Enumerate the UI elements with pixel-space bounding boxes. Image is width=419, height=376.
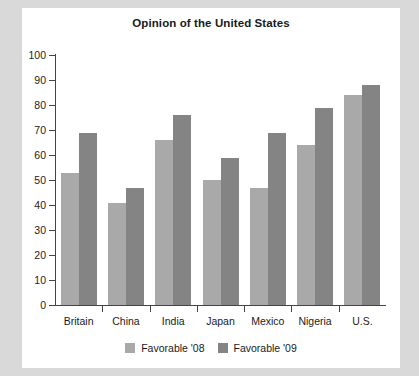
x-tick xyxy=(244,306,245,312)
chart-card: Opinion of the United States 01020304050… xyxy=(22,8,400,368)
bar-mexico-series-0 xyxy=(250,188,268,306)
x-axis-line xyxy=(55,305,386,306)
x-tick xyxy=(150,306,151,312)
bar-mexico-series-1 xyxy=(268,133,286,306)
bar-india-series-1 xyxy=(173,115,191,305)
x-tick xyxy=(291,306,292,312)
legend-swatch-icon xyxy=(125,343,135,353)
x-tick xyxy=(102,306,103,312)
legend-label: Favorable '08 xyxy=(141,342,204,354)
bar-britain-series-1 xyxy=(79,133,97,306)
y-tick-label: 90 xyxy=(22,74,46,86)
x-tick-label: Nigeria xyxy=(298,315,331,327)
y-tick-label: 40 xyxy=(22,199,46,211)
y-tick-label: 50 xyxy=(22,174,46,186)
bar-nigeria-series-0 xyxy=(297,145,315,305)
y-tick-label: 100 xyxy=(22,49,46,61)
bar-u-s-series-0 xyxy=(344,95,362,305)
y-tick-label: 80 xyxy=(22,99,46,111)
x-tick xyxy=(339,306,340,312)
bar-china-series-1 xyxy=(126,188,144,306)
bar-india-series-0 xyxy=(155,140,173,305)
x-tick-label: U.S. xyxy=(352,315,372,327)
y-tick-label: 70 xyxy=(22,124,46,136)
bar-china-series-0 xyxy=(108,203,126,306)
y-tick-label: 10 xyxy=(22,274,46,286)
y-tick-label: 60 xyxy=(22,149,46,161)
legend-item-series-0[interactable]: Favorable '08 xyxy=(125,342,204,354)
legend-label: Favorable '09 xyxy=(234,342,297,354)
bar-japan-series-1 xyxy=(221,158,239,306)
y-tick-label: 20 xyxy=(22,249,46,261)
chart-legend: Favorable '08Favorable '09 xyxy=(22,342,400,354)
y-tick-label: 30 xyxy=(22,224,46,236)
y-axis-labels: 0102030405060708090100 xyxy=(22,8,46,368)
bar-britain-series-0 xyxy=(61,173,79,306)
y-tick-label: 0 xyxy=(22,299,46,311)
x-tick-label: India xyxy=(162,315,185,327)
bar-japan-series-0 xyxy=(203,180,221,305)
x-tick-label: China xyxy=(112,315,139,327)
legend-item-series-1[interactable]: Favorable '09 xyxy=(218,342,297,354)
x-tick-label: Mexico xyxy=(251,315,284,327)
plot-area xyxy=(55,55,400,305)
bar-nigeria-series-1 xyxy=(315,108,333,306)
x-tick xyxy=(197,306,198,312)
bar-u-s-series-1 xyxy=(362,85,380,305)
chart-title: Opinion of the United States xyxy=(22,17,400,29)
x-tick-label: Britain xyxy=(64,315,94,327)
legend-swatch-icon xyxy=(218,343,228,353)
x-tick-label: Japan xyxy=(206,315,235,327)
